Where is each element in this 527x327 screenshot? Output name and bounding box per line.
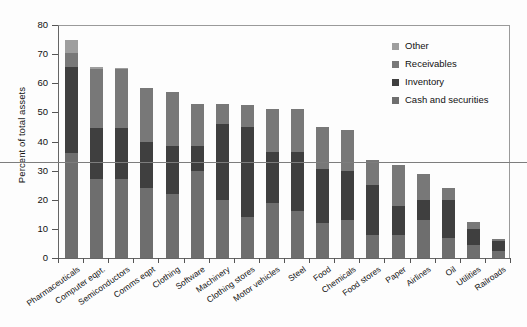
bar-segment-receivables: [442, 188, 455, 200]
bar: [442, 188, 455, 258]
legend-item: Inventory: [392, 74, 488, 90]
legend-swatch-icon: [392, 97, 399, 104]
bar-segment-inventory: [65, 67, 78, 153]
bar-segment-cash-and-securities: [442, 238, 455, 258]
bar-segment-cash-and-securities: [90, 179, 103, 258]
x-tick-mark: [259, 258, 260, 263]
x-tick-mark: [359, 258, 360, 263]
bar: [216, 104, 229, 258]
y-tick-label: 20: [0, 193, 52, 204]
reference-line: [0, 162, 527, 163]
y-tick-label: 0: [0, 252, 52, 263]
y-tick-label: 70: [0, 48, 52, 59]
bar-segment-cash-and-securities: [115, 179, 128, 258]
legend-swatch-icon: [392, 61, 399, 68]
bar-segment-cash-and-securities: [241, 217, 254, 258]
bar: [467, 222, 480, 258]
bar-segment-inventory: [366, 185, 379, 235]
bar-segment-receivables: [366, 160, 379, 185]
y-tick-label: 80: [0, 19, 52, 30]
chart-legend: OtherReceivablesInventoryCash and securi…: [392, 38, 488, 110]
x-axis-label: Steel: [286, 264, 308, 283]
bar-segment-inventory: [241, 127, 254, 217]
bar-segment-inventory: [442, 200, 455, 238]
bar-segment-cash-and-securities: [492, 251, 505, 258]
y-tick-label: 50: [0, 106, 52, 117]
bar-segment-receivables: [166, 92, 179, 146]
bar-segment-receivables: [65, 53, 78, 68]
bar-segment-inventory: [467, 229, 480, 245]
y-tick-label: 40: [0, 135, 52, 146]
chart-figure: Percent of total assets 8070605040302010…: [0, 0, 527, 327]
x-tick-mark: [83, 258, 84, 263]
bar-segment-other: [65, 40, 78, 53]
bar-segment-cash-and-securities: [316, 223, 329, 258]
bar-segment-inventory: [291, 152, 304, 212]
bar-segment-receivables: [115, 69, 128, 129]
legend-swatch-icon: [392, 79, 399, 86]
y-tick-label: 30: [0, 164, 52, 175]
bar: [291, 109, 304, 258]
bar-segment-cash-and-securities: [291, 211, 304, 258]
x-tick-mark: [435, 258, 436, 263]
legend-label: Inventory: [405, 77, 444, 87]
bar-segment-cash-and-securities: [341, 220, 354, 258]
x-tick-mark: [184, 258, 185, 263]
x-axis-label: Oil: [444, 264, 458, 278]
bar-segment-cash-and-securities: [366, 235, 379, 258]
bar: [316, 127, 329, 258]
bar-segment-receivables: [266, 109, 279, 151]
bar-segment-receivables: [191, 104, 204, 146]
bar-segment-inventory: [140, 142, 153, 189]
x-tick-mark: [510, 258, 511, 263]
bar-segment-inventory: [492, 241, 505, 251]
bar-segment-inventory: [191, 146, 204, 171]
legend-item: Receivables: [392, 56, 488, 72]
x-axis-label: Paper: [383, 264, 407, 285]
x-tick-mark: [108, 258, 109, 263]
bar-segment-inventory: [316, 169, 329, 223]
legend-label: Receivables: [405, 59, 457, 69]
bar-segment-receivables: [291, 109, 304, 151]
bar-segment-inventory: [115, 128, 128, 179]
y-tick-label: 60: [0, 77, 52, 88]
legend-item: Other: [392, 38, 488, 54]
x-tick-mark: [158, 258, 159, 263]
bar: [115, 68, 128, 258]
bar-segment-receivables: [467, 222, 480, 229]
bar: [140, 88, 153, 258]
x-axis-label: Airlines: [404, 264, 433, 288]
bar-segment-receivables: [90, 69, 103, 129]
bar-segment-cash-and-securities: [166, 194, 179, 258]
bar-segment-cash-and-securities: [467, 245, 480, 258]
bar: [191, 104, 204, 258]
x-tick-mark: [410, 258, 411, 263]
bar-segment-cash-and-securities: [140, 188, 153, 258]
bar: [392, 165, 405, 258]
legend-label: Other: [405, 41, 429, 51]
bar: [266, 109, 279, 258]
x-tick-mark: [334, 258, 335, 263]
bar-segment-cash-and-securities: [392, 235, 405, 258]
bar-segment-inventory: [341, 171, 354, 221]
x-tick-mark: [133, 258, 134, 263]
x-tick-mark: [209, 258, 210, 263]
legend-swatch-icon: [392, 43, 399, 50]
y-tick-label: 10: [0, 222, 52, 233]
bar: [241, 105, 254, 258]
bar-segment-inventory: [166, 146, 179, 194]
bar-segment-inventory: [392, 206, 405, 235]
bar-segment-receivables: [417, 174, 430, 200]
bar-segment-receivables: [140, 88, 153, 142]
bar-segment-receivables: [216, 104, 229, 124]
legend-label: Cash and securities: [405, 95, 488, 105]
x-tick-mark: [58, 258, 59, 263]
bar-segment-receivables: [341, 130, 354, 171]
bar: [341, 130, 354, 258]
bar-segment-cash-and-securities: [417, 220, 430, 258]
bar-segment-cash-and-securities: [65, 153, 78, 258]
bar: [65, 40, 78, 258]
bar-segment-cash-and-securities: [191, 171, 204, 258]
bar-segment-inventory: [266, 152, 279, 203]
bar-segment-receivables: [392, 165, 405, 206]
